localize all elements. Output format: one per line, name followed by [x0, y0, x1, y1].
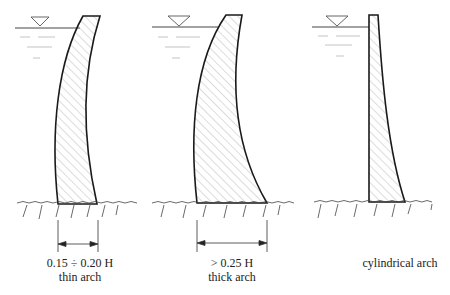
- thin-arch-dimension: 0.15 ÷ 0.20 H: [30, 256, 130, 270]
- cylindrical-arch-label: cylindrical arch: [345, 256, 450, 270]
- thin-dimension-line: [58, 220, 98, 252]
- thin-arch-label: thin arch: [30, 270, 130, 284]
- cylindrical-arch-section: [369, 15, 405, 202]
- cylindrical-arch-panel: [312, 15, 432, 218]
- thin-arch-panel: [15, 16, 137, 252]
- thin-arch-section: [55, 16, 100, 204]
- thick-arch-panel: [152, 15, 294, 252]
- thick-dimension-line: [197, 220, 267, 252]
- ground-rock: [314, 201, 432, 219]
- arch-dam-diagram: [0, 0, 450, 295]
- thick-arch-label: thick arch: [182, 270, 282, 284]
- water-level-icon: [312, 16, 369, 56]
- thick-arch-dimension: > 0.25 H: [182, 256, 282, 270]
- thick-arch-section: [194, 15, 267, 203]
- ground-rock: [152, 202, 294, 219]
